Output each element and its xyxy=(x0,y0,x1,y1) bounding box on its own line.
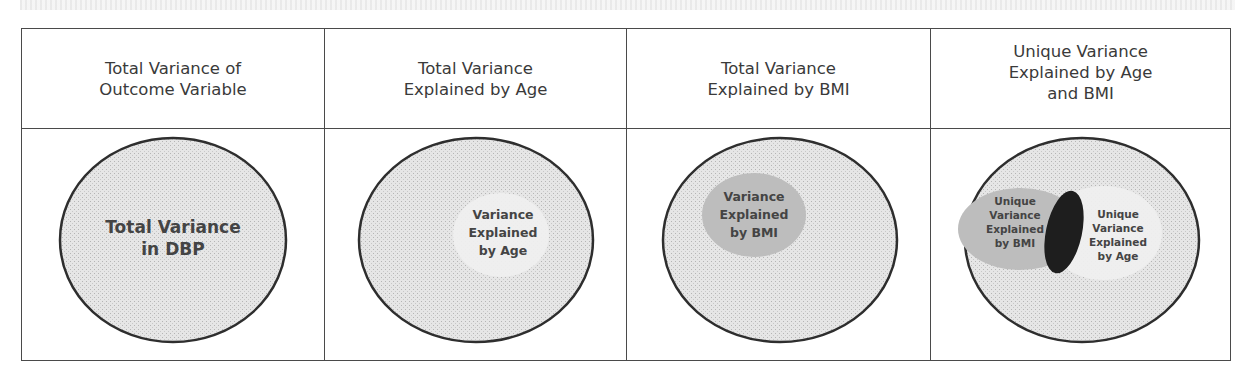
header-variance-bmi: Total Variance Explained by BMI xyxy=(627,29,931,129)
ellipse-label: Total Variance xyxy=(105,217,240,237)
region-label: Variance xyxy=(472,207,533,222)
cropped-top-text-strip xyxy=(20,0,1235,10)
ellipse-label: in DBP xyxy=(141,239,204,259)
header-label: Unique Variance Explained by Age and BMI xyxy=(1009,41,1153,104)
region-label: by BMI xyxy=(995,237,1035,249)
region-label: Variance xyxy=(989,209,1040,221)
region-label: by Age xyxy=(479,243,528,258)
diagram-total-variance: Total Variance in DBP xyxy=(22,129,325,360)
region-label: Variance xyxy=(1092,222,1143,234)
region-label: Explained xyxy=(720,207,789,222)
diagram-variance-bmi: Variance Explained by BMI xyxy=(627,129,931,360)
diagram-unique-variance: Unique Variance Explained by BMI Unique … xyxy=(931,129,1230,360)
region-label: Explained xyxy=(1089,236,1147,248)
region-label: Explained xyxy=(986,223,1044,235)
region-label: Unique xyxy=(994,195,1036,207)
header-label: Total Variance of Outcome Variable xyxy=(99,58,246,100)
region-label: Variance xyxy=(723,189,784,204)
region-label: by Age xyxy=(1098,250,1139,262)
variance-diagram-table: Total Variance of Outcome Variable Total… xyxy=(21,28,1231,361)
diagram-variance-age: Variance Explained by Age xyxy=(325,129,627,360)
region-label: Explained xyxy=(469,225,538,240)
region-label: by BMI xyxy=(730,225,778,240)
header-variance-age: Total Variance Explained by Age xyxy=(325,29,627,129)
header-label: Total Variance Explained by Age xyxy=(404,58,548,100)
header-unique-variance: Unique Variance Explained by Age and BMI xyxy=(931,29,1230,129)
header-total-variance: Total Variance of Outcome Variable xyxy=(22,29,325,129)
header-label: Total Variance Explained by BMI xyxy=(707,58,849,100)
region-label: Unique xyxy=(1097,208,1139,220)
